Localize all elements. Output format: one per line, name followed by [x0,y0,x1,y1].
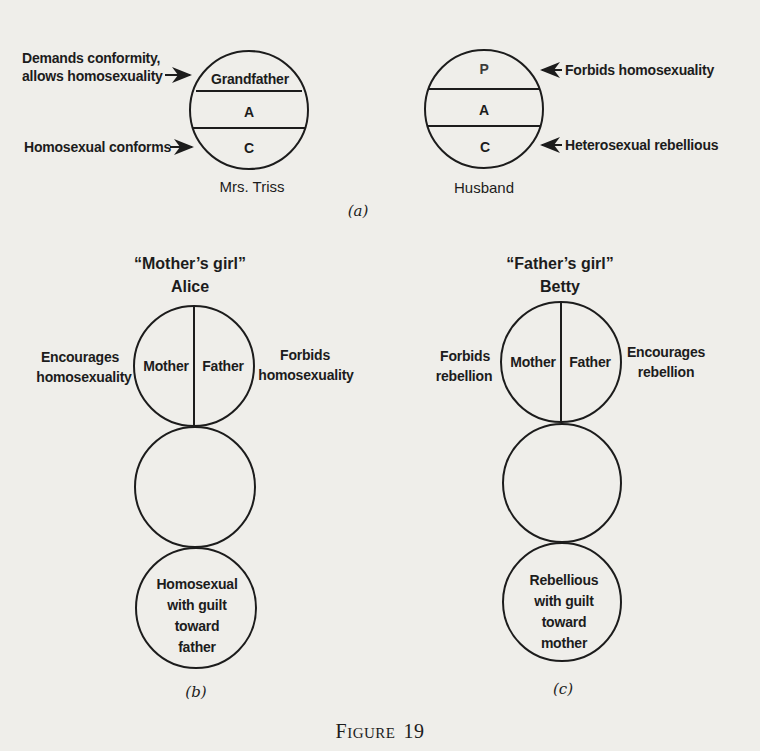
alice-bottom-line4: father [178,639,216,655]
figure-caption: FIGURE19 [336,720,425,742]
alice-top-right-label: Father [202,358,244,374]
betty-top-left-label: Mother [510,354,556,370]
panel-c-tag: (c) [553,680,573,698]
betty-title: “Father’s girl” [506,255,614,272]
figure-19-diagram: Grandfather A C Demands conformity, allo… [0,0,760,751]
betty-right-annotation-line2: rebellion [638,364,695,380]
caption-small-caps: IGURE [347,725,395,741]
panel-a-tag: (a) [348,202,369,220]
husband-annotation-top: Forbids homosexuality [565,62,714,78]
betty-left-annotation-line1: Forbids [440,348,490,364]
alice-right-annotation-line1: Forbids [280,347,330,363]
betty-bottom-line3: toward [542,614,587,630]
husband-segment-c: C [480,139,490,155]
mrs-triss-segment-a: A [244,104,254,120]
alice-right-annotation-line2: homosexuality [258,367,354,383]
alice-bottom-line2: with guilt [166,597,227,613]
betty-right-annotation-line1: Encourages [627,344,706,360]
betty-bottom-line2: with guilt [533,593,594,609]
mrs-triss-segment-grandfather: Grandfather [211,71,290,87]
mrs-triss-diagram: Grandfather A C Demands conformity, allo… [22,50,308,195]
alice-middle-circle [135,427,255,547]
betty-top-right-label: Father [569,354,611,370]
mrs-triss-segment-c: C [244,140,254,156]
husband-segment-top: P [479,61,488,77]
betty-left-annotation-line2: rebellion [436,368,493,384]
alice-bottom-line3: toward [175,618,220,634]
alice-name: Alice [171,278,209,295]
panel-b-tag: (b) [185,683,206,701]
betty-middle-circle [503,424,621,542]
mrs-triss-annotation-bottom: Homosexual conforms [24,139,172,155]
mrs-triss-annotation-top-line1: Demands conformity, [22,50,160,66]
betty-diagram: “Father’s girl” Betty Mother Father Forb… [436,255,706,698]
alice-title: “Mother’s girl” [134,255,246,272]
caption-number: 19 [403,720,424,742]
alice-diagram: “Mother’s girl” Alice Mother Father Enco… [36,255,354,701]
husband-name: Husband [454,179,514,196]
alice-top-left-label: Mother [143,358,189,374]
mrs-triss-name: Mrs. Triss [220,178,285,195]
betty-bottom-line4: mother [541,635,588,651]
husband-diagram: P A C Forbids homosexuality Heterosexual… [425,50,719,196]
mrs-triss-annotation-top-line2: allows homosexuality [22,68,163,84]
caption-prefix: F [336,720,348,742]
alice-bottom-line1: Homosexual [156,576,237,592]
husband-annotation-bottom: Heterosexual rebellious [565,137,719,153]
husband-segment-a: A [479,102,489,118]
betty-bottom-line1: Rebellious [530,572,599,588]
alice-left-annotation-line2: homosexuality [36,369,132,385]
alice-left-annotation-line1: Encourages [41,349,120,365]
betty-name: Betty [540,278,580,295]
